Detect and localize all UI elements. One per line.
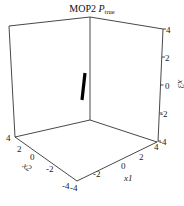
svg-text:4: 4 xyxy=(6,133,11,143)
svg-text:-2: -2 xyxy=(93,169,101,179)
svg-text:2: 2 xyxy=(165,53,170,63)
svg-text:4: 4 xyxy=(154,142,159,152)
svg-text:-2: -2 xyxy=(160,109,168,119)
box-left-edge xyxy=(9,26,15,137)
svg-text:0: 0 xyxy=(165,81,170,91)
pareto-set-segment xyxy=(82,73,85,100)
x3-ticks: 4 2 0 -2 -4 xyxy=(158,25,171,147)
box-top-edges xyxy=(9,17,163,29)
x3-axis-label: x3 xyxy=(176,79,184,89)
x1-axis-line xyxy=(77,142,157,181)
3d-plot: MOP2 Ptrue 4 2 0 -2 -4 x3 -4 -2 0 2 4 x1 xyxy=(0,0,184,206)
floor-back-right xyxy=(90,120,157,142)
x2-ticks: 4 2 0 -2 -4 xyxy=(6,133,70,191)
svg-text:-2: -2 xyxy=(46,164,54,174)
svg-text:2: 2 xyxy=(139,152,144,162)
svg-text:2: 2 xyxy=(17,144,22,154)
svg-text:0: 0 xyxy=(121,161,126,171)
floor-back-left xyxy=(15,120,90,137)
chart-title: MOP2 Ptrue xyxy=(69,3,115,15)
x1-axis-label: x1 xyxy=(123,173,133,183)
x3-axis-line xyxy=(158,29,163,142)
svg-text:-4: -4 xyxy=(70,183,78,193)
x1-ticks: -4 -2 0 2 4 xyxy=(70,142,159,193)
x2-axis-line xyxy=(15,137,77,181)
svg-text:0: 0 xyxy=(30,152,35,162)
svg-text:4: 4 xyxy=(166,25,171,35)
svg-text:-4: -4 xyxy=(62,181,70,191)
svg-text:-4: -4 xyxy=(159,137,167,147)
